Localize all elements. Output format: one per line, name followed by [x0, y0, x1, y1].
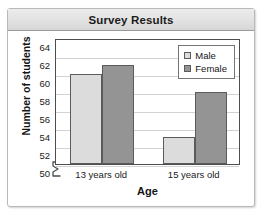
x-axis-tick-label: 13 years old — [75, 169, 127, 180]
gridline — [56, 166, 239, 167]
chart-legend: MaleFemale — [178, 45, 235, 79]
y-axis-tick-label: 58 — [39, 96, 50, 107]
bar-male-2 — [163, 137, 195, 164]
bar-male-1 — [70, 74, 102, 164]
bar-female-2 — [195, 92, 227, 164]
legend-label: Female — [195, 63, 227, 74]
chart-title: Survey Results — [88, 14, 173, 26]
y-axis-tick-label: 62 — [39, 60, 50, 71]
legend-item-male: Male — [184, 49, 227, 62]
chart-plot-region: Number of students 6462605856545250 Male… — [8, 31, 254, 206]
bar-female-1 — [102, 65, 134, 164]
x-axis-title: Age — [55, 185, 240, 197]
legend-label: Male — [195, 50, 216, 61]
y-axis-tick-label: 54 — [39, 132, 50, 143]
legend-swatch-icon — [184, 52, 191, 59]
chart-figure: Survey Results Number of students 646260… — [7, 8, 255, 207]
y-axis-tick-label: 56 — [39, 114, 50, 125]
x-axis-tick-labels: 13 years old15 years old — [55, 169, 240, 183]
y-axis-tick-label: 52 — [39, 150, 50, 161]
y-axis-tick-labels: 6462605856545250 — [30, 39, 50, 165]
chart-title-band: Survey Results — [8, 9, 254, 31]
y-axis-tick-label: 60 — [39, 78, 50, 89]
legend-item-female: Female — [184, 62, 227, 75]
x-axis-tick-label: 15 years old — [168, 169, 220, 180]
y-axis-tick-label: 64 — [39, 42, 50, 53]
legend-swatch-icon — [184, 65, 191, 72]
plot-area: MaleFemale — [55, 39, 240, 165]
